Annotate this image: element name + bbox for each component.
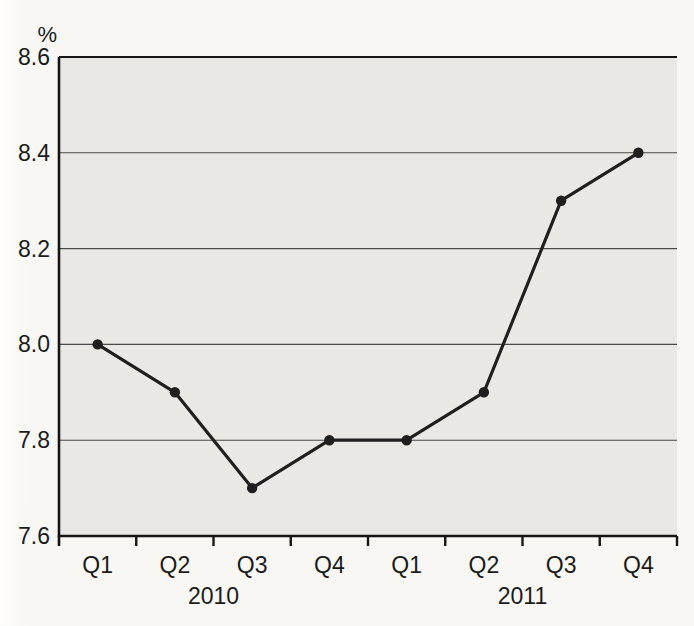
line-chart-figure: 7.67.88.08.28.48.6%Q1Q2Q3Q4Q1Q2Q3Q420102…	[0, 0, 694, 626]
y-axis-unit-label: %	[37, 22, 57, 47]
x-axis-label: Q4	[623, 552, 654, 578]
scanned-page: 7.67.88.08.28.48.6%Q1Q2Q3Q4Q1Q2Q3Q420102…	[0, 0, 694, 626]
data-point	[556, 196, 566, 206]
data-point	[324, 435, 334, 445]
year-label: 2010	[188, 583, 239, 609]
year-label: 2011	[498, 583, 547, 609]
x-axis-label: Q1	[391, 552, 422, 578]
data-point	[170, 387, 180, 397]
y-axis-label: 7.6	[18, 523, 50, 549]
data-point	[247, 483, 257, 493]
y-axis-label: 8.4	[18, 140, 50, 166]
x-axis-label: Q2	[160, 552, 191, 578]
plot-area	[59, 57, 677, 536]
y-axis-label: 8.6	[18, 44, 50, 70]
data-point	[92, 339, 102, 349]
data-point	[401, 435, 411, 445]
x-axis-label: Q3	[546, 552, 577, 578]
y-axis-label: 7.8	[18, 427, 50, 453]
x-axis-label: Q2	[469, 552, 500, 578]
y-axis-label: 8.2	[18, 236, 50, 262]
x-axis-label: Q1	[82, 552, 113, 578]
data-point	[633, 148, 643, 158]
x-axis-label: Q3	[237, 552, 268, 578]
quarterly-rate-line-chart: 7.67.88.08.28.48.6%Q1Q2Q3Q4Q1Q2Q3Q420102…	[0, 0, 694, 626]
y-axis-label: 8.0	[18, 331, 50, 357]
data-point	[479, 387, 489, 397]
x-axis-label: Q4	[314, 552, 345, 578]
